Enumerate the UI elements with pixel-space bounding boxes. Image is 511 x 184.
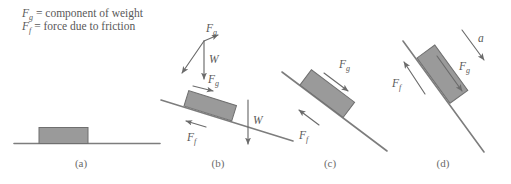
panel-b-label-w-top: W — [209, 53, 220, 65]
panel-c-block — [300, 70, 355, 118]
panel-label-a: (a) — [75, 157, 88, 170]
panel-c-block-group — [300, 70, 355, 118]
panel-c: Fg Ff (c) — [282, 58, 387, 170]
panel-label-c: (c) — [324, 157, 337, 170]
panel-b-label-fg-slope: Fg — [207, 73, 219, 88]
panel-b: Fg W Fg Ff W — [161, 22, 293, 170]
panel-b-decomposition: Fg W — [182, 22, 220, 79]
panel-b-block — [184, 91, 236, 121]
panel-a: (a) — [14, 128, 160, 171]
legend-definition-1: component of weight — [45, 7, 144, 20]
panel-d-label-ff: Ff — [391, 77, 403, 92]
panel-b-fg-slope: Fg — [193, 73, 219, 91]
panel-b-label-w-right: W — [253, 114, 264, 126]
panel-d-label-fg: Fg — [458, 60, 470, 75]
legend-line-2: Ff = force due to friction — [21, 20, 135, 35]
panel-c-label-ff: Ff — [298, 129, 310, 144]
panel-b-vector-normal-component — [182, 41, 204, 73]
panel-label-d: (d) — [437, 157, 450, 170]
force-diagram-figure: Fg = component of weight Ff = force due … — [0, 0, 511, 184]
panel-b-ff-slope: Ff — [186, 121, 206, 146]
panel-b-label-ff: Ff — [186, 131, 198, 146]
panel-d-ff: Ff — [391, 62, 425, 94]
figure-canvas: Fg = component of weight Ff = force due … — [0, 0, 511, 184]
panel-b-vector-ff — [186, 121, 206, 127]
panel-c-vector-ff — [299, 110, 319, 125]
panel-c-label-fg: Fg — [338, 58, 350, 73]
panel-b-vector-fg-slope — [193, 86, 213, 91]
legend-definition-2: force due to friction — [44, 20, 136, 32]
panel-d-label-a: a — [478, 32, 484, 44]
panel-a-block — [39, 128, 88, 144]
panel-label-b: (b) — [212, 157, 225, 170]
legend: Fg = component of weight Ff = force due … — [21, 7, 144, 35]
panel-b-w-right: W — [248, 100, 264, 144]
panel-d: a Fg Ff (d) — [391, 30, 484, 170]
panel-d-acceleration: a — [462, 30, 484, 60]
panel-c-ff: Ff — [298, 110, 319, 144]
panel-b-block-group — [184, 91, 236, 121]
panel-b-label-fg-top: Fg — [205, 22, 217, 37]
